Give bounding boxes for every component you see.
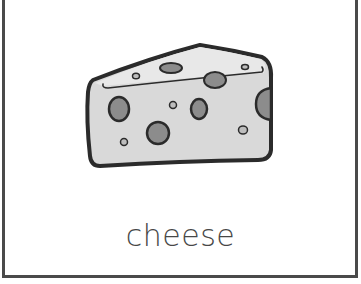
cheese-hole (160, 63, 182, 73)
cheese-hole (109, 97, 129, 121)
cheese-hole (133, 73, 140, 79)
cheese-hole (239, 126, 248, 134)
cheese-hole (242, 65, 249, 70)
word-label: cheese (0, 216, 361, 256)
cheese-hole (147, 122, 169, 144)
cheese-illustration (0, 0, 361, 200)
cheese-hole (191, 99, 207, 119)
cheese-hole-edge (256, 88, 271, 120)
cheese-hole (121, 139, 128, 146)
cheese-hole (204, 72, 226, 88)
cheese-hole (170, 102, 177, 109)
